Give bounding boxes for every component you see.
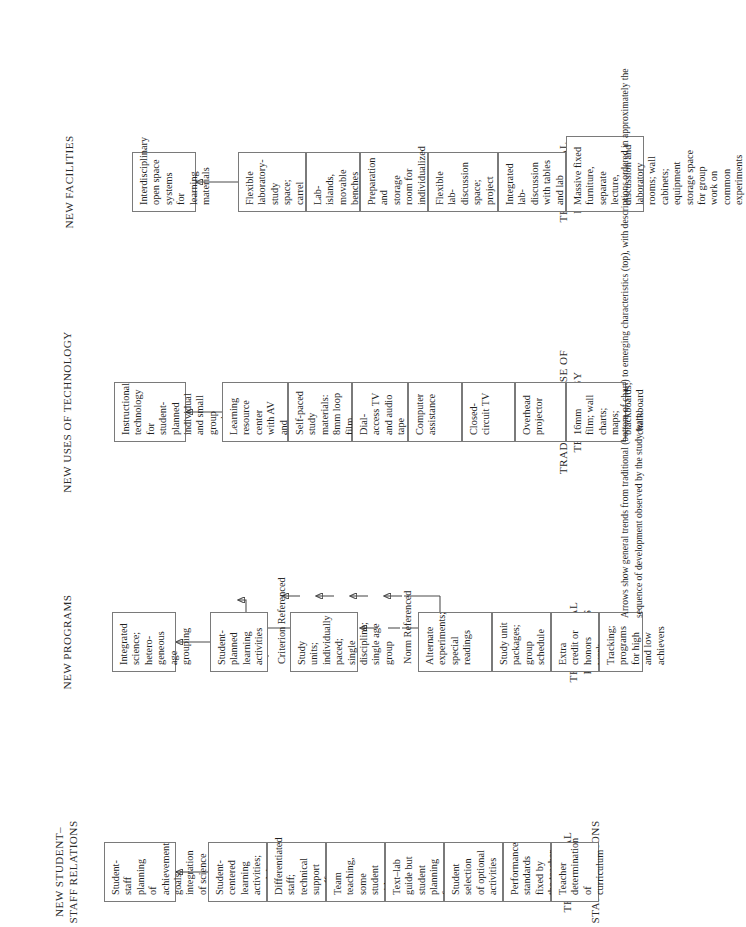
box-programs-1[interactable]: Student-planned learning activities [210, 612, 268, 672]
box-facilities-5[interactable]: Integrated lab-discussion with tables an… [498, 152, 566, 212]
box-staff-3[interactable]: Team teaching, some student aides [326, 842, 385, 902]
box-facilities-4[interactable]: Flexible lab-discussion space; project a… [428, 152, 498, 212]
box-programs-2[interactable]: Study units; individually paced; single … [290, 612, 358, 672]
subhead-norm-referenced: Norm Referenced [402, 591, 414, 664]
box-facilities-3[interactable]: Preparation and storage room for individ… [360, 152, 428, 212]
box-programs-0[interactable]: Integrated science; hetero-geneous age g… [112, 612, 176, 672]
box-technology-7[interactable]: 16mm film; wall charts; maps; blackboard… [566, 382, 626, 442]
subhead-criterion-referenced: Criterion Referenced [276, 577, 288, 664]
box-technology-2[interactable]: Self-paced study materials: 8mm loop fil… [288, 382, 352, 442]
box-programs-4[interactable]: Study unit packages; group schedule [492, 612, 551, 672]
box-programs-5[interactable]: Extra credit or honors work [551, 612, 599, 672]
box-technology-6[interactable]: Overhead projector [515, 382, 566, 442]
box-staff-0[interactable]: Student-staff planning of achievement go… [104, 842, 176, 902]
box-facilities-0[interactable]: Interdisciplinary open space systems for… [132, 152, 196, 212]
box-staff-6[interactable]: Performance standards fixed by the teach… [503, 842, 551, 902]
box-programs-6[interactable]: Tracking; programs for high and low achi… [599, 612, 643, 672]
box-facilities-2[interactable]: Lab-islands, movable benches [306, 152, 360, 212]
box-facilities-1[interactable]: Flexible laboratory-study space; carrel … [238, 152, 306, 212]
box-technology-4[interactable]: Computer assistance [408, 382, 462, 442]
box-technology-5[interactable]: Closed-circuit TV [462, 382, 515, 442]
box-technology-1[interactable]: Learning resource center with AV and ref… [222, 382, 288, 442]
box-programs-3[interactable]: Alternate experiments; special readings [418, 612, 492, 672]
box-staff-4[interactable]: Text–lab guide but student planning for … [385, 842, 444, 902]
figure-caption: Arrows show general trends from traditio… [618, 58, 645, 618]
box-staff-7[interactable]: Teacher determination of curriculum [551, 842, 599, 902]
box-staff-1[interactable]: Student-centered learning activities; mo… [208, 842, 267, 902]
box-technology-3[interactable]: Dial-access TV and audio tape [352, 382, 408, 442]
box-technology-0[interactable]: Instructional technology for student-pla… [114, 382, 186, 442]
box-staff-2[interactable]: Differentiated staff; technical support … [267, 842, 326, 902]
box-staff-5[interactable]: Student selection of optional activities [444, 842, 503, 902]
